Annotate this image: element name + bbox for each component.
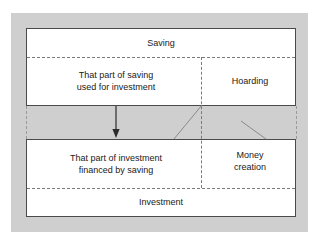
money-creation-cell: Money creation xyxy=(207,149,293,173)
saving-band-label: Saving xyxy=(27,38,295,49)
saving-left-cell-line1: That part of saving xyxy=(31,69,201,81)
money-creation-line2: creation xyxy=(207,161,293,173)
down-arrow-icon xyxy=(110,106,122,139)
right-edge-tie-icon xyxy=(240,120,268,140)
gap-guide-right xyxy=(296,106,297,139)
investment-left-cell-line1: That part of investment xyxy=(31,152,201,164)
investment-left-cell-line2: financed by saving xyxy=(31,164,201,176)
saving-band-divider xyxy=(27,57,295,58)
investment-left-cell: That part of investment financed by savi… xyxy=(31,152,201,176)
investment-block: That part of investment financed by savi… xyxy=(26,139,296,217)
saving-left-cell-line2: used for investment xyxy=(31,81,201,93)
investment-band-label: Investment xyxy=(27,197,295,208)
figure-root: Saving That part of saving used for inve… xyxy=(0,0,320,246)
gap-guide-left xyxy=(26,106,27,139)
hoarding-to-money-creation-tie-icon xyxy=(172,104,204,140)
hoarding-cell: Hoarding xyxy=(207,75,293,87)
saving-left-cell: That part of saving used for investment xyxy=(31,69,201,93)
investment-band-divider xyxy=(27,188,295,189)
money-creation-line1: Money xyxy=(207,149,293,161)
saving-block: Saving That part of saving used for inve… xyxy=(26,28,296,106)
